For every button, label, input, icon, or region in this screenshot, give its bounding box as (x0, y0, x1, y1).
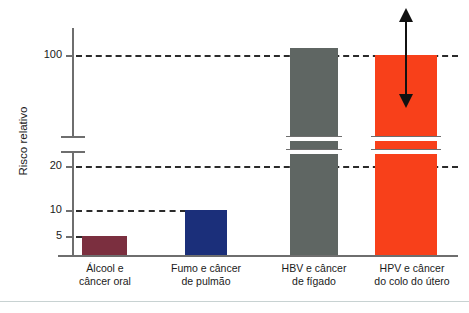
x-label-line2: de pulmão (154, 275, 258, 288)
bar-fumo-cancer-pulmao (185, 210, 227, 256)
x-label-line2: câncer oral (58, 275, 152, 288)
x-label-line1: HBV e câncer (262, 262, 366, 275)
bar-break-hpv-lower (375, 150, 437, 154)
y-tick-label-100: 100 (22, 49, 62, 60)
y-tick-5 (66, 236, 74, 238)
bar-break-hbv-upper (290, 137, 338, 141)
bar-alcool-cancer-oral (82, 236, 127, 256)
double-arrow-head-down (399, 94, 413, 108)
double-arrow-shaft (405, 14, 407, 106)
footer-divider (0, 301, 469, 302)
x-label-alcool-cancer-oral: Álcool e câncer oral (58, 262, 152, 288)
x-axis-line (58, 255, 458, 257)
bar-break-hpv-edge-top (371, 136, 441, 137)
y-tick-100 (66, 55, 74, 57)
y-axis-break-mark-upper (61, 136, 85, 138)
x-label-hbv-cancer-figado: HBV e câncer de fígado (262, 262, 366, 288)
bar-break-hbv-edge-top (286, 136, 342, 137)
x-label-line2: do colo do útero (358, 275, 466, 288)
bar-break-hpv-upper (375, 137, 437, 141)
x-label-line1: HPV e câncer (358, 262, 466, 275)
y-tick-20 (66, 166, 74, 168)
x-label-line1: Fumo e câncer (154, 262, 258, 275)
y-tick-label-10: 10 (22, 204, 62, 215)
gridline-10 (76, 210, 186, 212)
y-axis-title: Risco relativo (17, 86, 29, 196)
y-tick-label-5: 5 (22, 230, 62, 241)
double-arrow-head-up (399, 8, 413, 22)
bar-break-hpv-edge-bottom (371, 149, 441, 150)
x-label-line2: de fígado (262, 275, 366, 288)
chart-page: 100 20 10 5 Risco relativo (0, 0, 469, 313)
x-label-line1: Álcool e (58, 262, 152, 275)
bar-break-hbv-lower (290, 150, 338, 154)
y-axis-break-mark-lower (61, 151, 85, 153)
bar-break-hbv-edge-bottom (286, 149, 342, 150)
x-label-hpv-cancer-colo-utero: HPV e câncer do colo do útero (358, 262, 466, 288)
bar-chart: 100 20 10 5 Risco relativo (0, 0, 469, 313)
x-label-fumo-cancer-pulmao: Fumo e câncer de pulmão (154, 262, 258, 288)
y-tick-10 (66, 210, 74, 212)
